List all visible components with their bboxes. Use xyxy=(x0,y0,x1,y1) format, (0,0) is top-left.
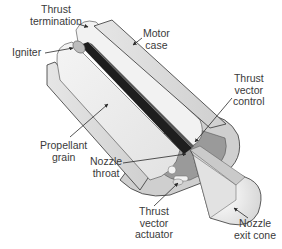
label-nozzle-throat: Nozzle throat xyxy=(90,156,122,179)
label-igniter: Igniter xyxy=(12,47,41,59)
label-thrust-vector-actuator: Thrust vector actuator xyxy=(135,206,173,241)
label-motor-case: Motor case xyxy=(143,28,170,51)
label-thrust-termination: Thrust termination xyxy=(30,4,82,27)
label-thrust-vector-control: Thrust vector control xyxy=(233,73,265,108)
label-nozzle-exit-cone: Nozzle exit cone xyxy=(234,218,276,241)
label-propellant-grain: Propellant grain xyxy=(40,140,87,163)
